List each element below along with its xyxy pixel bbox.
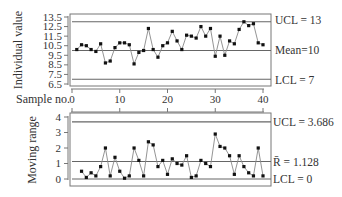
data-point <box>104 146 107 149</box>
data-point <box>257 41 260 44</box>
data-point <box>128 174 131 177</box>
top-lcl-label: LCL = 7 <box>275 74 315 86</box>
x-axis: 010203040 <box>69 89 269 112</box>
data-point <box>90 171 93 174</box>
data-point <box>113 46 116 49</box>
data-point <box>80 170 83 173</box>
data-point <box>147 27 150 30</box>
data-point <box>175 162 178 165</box>
data-point <box>152 48 155 51</box>
bottom-y-label: Moving range <box>25 116 39 184</box>
data-point <box>80 43 83 46</box>
data-point <box>204 35 207 38</box>
data-point <box>180 163 183 166</box>
x-tick-label: 20 <box>162 93 174 105</box>
bottom-y-axis: 43210 <box>56 111 69 185</box>
x-tick-label: 40 <box>258 93 270 105</box>
data-point <box>94 174 97 177</box>
data-point <box>261 174 264 177</box>
y-tick-label: 1 <box>56 157 62 169</box>
y-tick-label: 0 <box>56 173 62 185</box>
data-point <box>132 62 135 65</box>
y-tick-label: 2 <box>56 142 62 154</box>
data-point <box>257 146 260 149</box>
data-point <box>214 55 217 58</box>
data-point <box>204 162 207 165</box>
data-point <box>209 165 212 168</box>
data-point <box>118 170 121 173</box>
data-point <box>94 50 97 53</box>
data-point <box>109 174 112 177</box>
x-tick-label: 30 <box>210 93 222 105</box>
data-point <box>238 154 241 157</box>
individuals-chart: 13.512.511.510.59.58.57.56.5 Individual … <box>11 11 322 90</box>
data-point <box>156 165 159 168</box>
data-point <box>228 39 231 42</box>
data-point <box>142 49 145 52</box>
data-point <box>123 41 126 44</box>
bottom-lcl-label: LCL = 0 <box>273 173 313 185</box>
data-point <box>156 56 159 59</box>
data-point <box>99 42 102 45</box>
data-point <box>166 173 169 176</box>
data-point <box>99 165 102 168</box>
data-point <box>147 140 150 143</box>
data-point <box>128 43 131 46</box>
data-point <box>161 159 164 162</box>
data-point <box>142 174 145 177</box>
data-point <box>185 34 188 37</box>
data-point <box>175 39 178 42</box>
data-point <box>137 159 140 162</box>
data-point <box>85 44 88 47</box>
data-point <box>242 165 245 168</box>
top-ucl-label: UCL = 13 <box>275 14 322 26</box>
bottom-plot-frame <box>70 113 271 186</box>
data-point <box>242 20 245 23</box>
data-point <box>195 36 198 39</box>
data-point <box>171 30 174 33</box>
data-point <box>247 24 250 27</box>
data-point <box>118 41 121 44</box>
y-tick-label: 3 <box>56 126 62 138</box>
x-tick-label: 0 <box>69 93 75 105</box>
x-axis-label: Sample no. <box>16 92 70 106</box>
moving-range-chart: 43210 Moving range UCL = 3.686 R̄ = 1.12… <box>25 111 334 187</box>
data-point <box>171 157 174 160</box>
data-point <box>123 177 126 180</box>
x-tick-label: 10 <box>114 93 126 105</box>
bottom-data-series <box>80 132 265 179</box>
data-point <box>90 48 93 51</box>
data-point <box>185 154 188 157</box>
data-point <box>161 44 164 47</box>
y-tick-label: 4 <box>56 111 62 123</box>
data-point <box>233 42 236 45</box>
data-point <box>180 48 183 51</box>
top-data-series <box>75 20 264 65</box>
control-chart: 13.512.511.510.59.58.57.56.5 Individual … <box>0 0 342 197</box>
data-point <box>113 156 116 159</box>
bottom-ucl-label: UCL = 3.686 <box>273 116 334 128</box>
data-point <box>218 35 221 38</box>
data-point <box>109 59 112 62</box>
data-point <box>190 176 193 179</box>
data-point <box>252 174 255 177</box>
data-point <box>190 35 193 38</box>
y-tick-label: 6.5 <box>48 78 62 90</box>
bottom-rbar-label: R̄ = 1.128 <box>273 156 319 168</box>
data-point <box>137 51 140 54</box>
data-point <box>252 22 255 25</box>
data-point <box>223 146 226 149</box>
data-point <box>104 61 107 64</box>
data-point <box>261 43 264 46</box>
top-y-label: Individual value <box>11 11 25 89</box>
data-point <box>247 171 250 174</box>
data-point <box>166 41 169 44</box>
top-y-axis: 13.512.511.510.59.58.57.56.5 <box>43 11 68 90</box>
data-point <box>199 159 202 162</box>
bottom-control-lines <box>72 122 271 179</box>
top-mean-label: Mean=10 <box>275 44 319 56</box>
data-point <box>152 143 155 146</box>
data-point <box>233 173 236 176</box>
data-point <box>214 132 217 135</box>
data-point <box>218 145 221 148</box>
